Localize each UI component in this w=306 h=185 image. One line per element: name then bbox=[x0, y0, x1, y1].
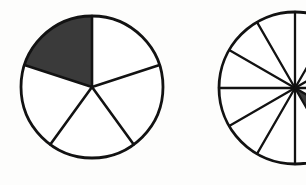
fraction-circles-figure bbox=[0, 0, 306, 185]
left-circle bbox=[21, 16, 163, 158]
